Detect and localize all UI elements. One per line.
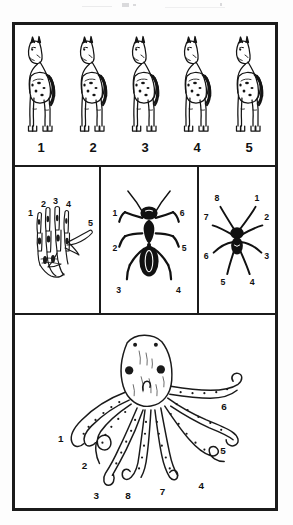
figure-plate: 1 2 3 4 5 — [12, 22, 278, 511]
ant-leg-label: 6 — [180, 208, 185, 218]
horse-figure — [71, 31, 115, 135]
horse-label: 5 — [227, 140, 271, 155]
hand-digit-label: 3 — [53, 196, 58, 206]
horse-label: 1 — [19, 140, 63, 155]
spider-leg-label: 4 — [250, 277, 255, 287]
ant-leg-label: 1 — [113, 208, 118, 218]
scan-artifact — [70, 3, 230, 9]
spider-cell: 1 2 3 4 8 7 6 5 — [199, 167, 275, 313]
ant-leg-label: 5 — [182, 243, 187, 253]
horse-row: 1 2 3 4 5 — [15, 25, 275, 165]
horse-label: 3 — [123, 140, 167, 155]
hand-cell: 1 2 3 4 5 — [15, 167, 99, 313]
horse-label-row: 1 2 3 4 5 — [15, 135, 275, 159]
octopus-arm-label: 2 — [82, 460, 88, 471]
octopus-arm-label: 3 — [94, 490, 100, 501]
horse-figure — [227, 31, 271, 135]
hand-digit-label: 2 — [41, 199, 46, 209]
spider-leg-label: 3 — [264, 251, 269, 261]
horse-figure — [175, 31, 219, 135]
octopus-arm-label: 1 — [58, 433, 64, 444]
hand-digit-label: 4 — [66, 199, 71, 209]
octopus-arm-label: 5 — [220, 445, 226, 456]
spider-leg-label: 7 — [204, 212, 209, 222]
octopus-arm-label: 7 — [160, 486, 166, 497]
horse-label: 2 — [71, 140, 115, 155]
octopus-arm-label: 6 — [221, 401, 227, 412]
spider-leg-label: 5 — [220, 277, 225, 287]
ant-leg-label: 2 — [113, 243, 118, 253]
horse-strip — [15, 27, 275, 135]
horse-label: 4 — [175, 140, 219, 155]
ant-leg-label: 3 — [116, 285, 121, 295]
octopus-arm-label: 8 — [125, 490, 131, 501]
horse-figure — [123, 31, 167, 135]
spider-leg-label: 6 — [204, 251, 209, 261]
spider-leg-label: 8 — [215, 193, 220, 203]
ant-cell: 1 2 3 6 5 4 — [99, 167, 199, 313]
spider-leg-label: 2 — [264, 212, 269, 222]
horse-figure — [19, 31, 63, 135]
spider-leg-label: 1 — [255, 193, 260, 203]
ant-leg-label: 4 — [176, 285, 181, 295]
hand-digit-label: 1 — [28, 208, 33, 218]
octopus-arm-label: 4 — [198, 480, 204, 491]
octopus-cell: 1 2 3 4 5 6 7 8 — [15, 315, 275, 508]
plate-page: 1 2 3 4 5 — [0, 0, 293, 525]
three-cell-row: 1 2 3 4 5 — [15, 167, 275, 313]
hand-digit-label: 5 — [88, 218, 93, 228]
